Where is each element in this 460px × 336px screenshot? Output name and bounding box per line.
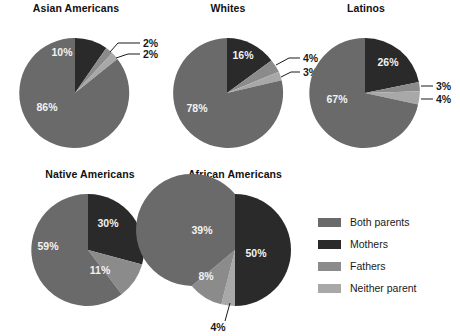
callout-label-neither-parent: 4% xyxy=(436,93,452,105)
slice-label-mothers: 50% xyxy=(245,247,267,259)
legend-label-mothers: Mothers xyxy=(350,238,388,250)
leader-line-neither xyxy=(225,303,230,321)
legend-swatch-both-parents xyxy=(318,218,341,227)
callout-label-neither-parent: 4% xyxy=(210,321,226,333)
legend-item-both-parents[interactable]: Both parents xyxy=(318,213,417,231)
legend-swatch-fathers xyxy=(318,262,341,271)
chart-title-latinos: Latinos xyxy=(290,2,442,14)
slice-label-mothers: 10% xyxy=(51,46,73,58)
leader-line-neither xyxy=(116,54,140,58)
pie-svg-whites: 16% 78% 4% 3% xyxy=(152,14,304,160)
pie-svg-african-americans: 50% 39% 8% 4% xyxy=(150,182,335,332)
callout-label-fathers: 3% xyxy=(436,80,452,92)
legend-label-both-parents: Both parents xyxy=(350,216,410,228)
legend-swatch-mothers xyxy=(318,240,341,249)
slice-label-fathers: 8% xyxy=(198,270,214,282)
legend: Both parents Mothers Fathers Neither par… xyxy=(318,213,417,301)
slice-label-fathers: 11% xyxy=(90,264,111,276)
pie-chart-latinos: Latinos 26% 67% 3% 4% xyxy=(304,0,460,160)
chart-title-whites: Whites xyxy=(152,2,304,14)
legend-label-neither-parent: Neither parent xyxy=(350,282,417,294)
slice-label-both-parents: 59% xyxy=(37,240,59,252)
pie-svg-asian-americans: 10% 86% 2% 2% xyxy=(0,14,152,160)
legend-label-fathers: Fathers xyxy=(350,260,386,272)
pie-chart-african-americans: African Americans 50% 39% 8% 4% xyxy=(150,166,335,336)
pie-svg-latinos: 26% 67% 3% 4% xyxy=(290,14,446,160)
pie-chart-whites: Whites 16% 78% 4% 3% xyxy=(152,0,304,160)
slice-label-mothers: 16% xyxy=(232,49,254,61)
slice-label-mothers: 26% xyxy=(377,56,399,68)
legend-item-fathers[interactable]: Fathers xyxy=(318,257,417,275)
leader-line-fathers xyxy=(110,43,140,52)
legend-item-neither-parent[interactable]: Neither parent xyxy=(318,279,417,297)
slice-label-both-parents: 39% xyxy=(191,224,213,236)
slice-label-both-parents: 78% xyxy=(186,102,208,114)
legend-item-mothers[interactable]: Mothers xyxy=(318,235,417,253)
slice-label-mothers: 30% xyxy=(97,217,119,229)
pie-chart-asian-americans: Asian Americans 10% 86% 2% 2% xyxy=(0,0,152,160)
chart-canvas: Asian Americans 10% 86% 2% 2% Whites xyxy=(0,0,460,336)
slice-label-both-parents: 67% xyxy=(326,93,348,105)
legend-swatch-neither-parent xyxy=(318,284,341,293)
chart-title-asian-americans: Asian Americans xyxy=(0,2,152,14)
slice-label-both-parents: 86% xyxy=(36,101,58,113)
